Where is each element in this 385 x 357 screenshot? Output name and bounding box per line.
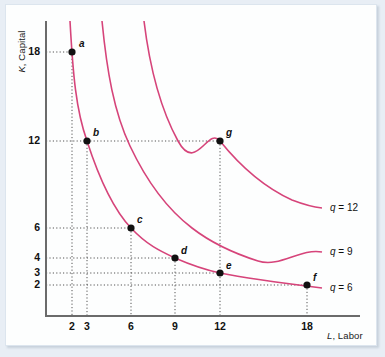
point-label-d: d	[181, 245, 187, 256]
point-b	[83, 137, 90, 144]
point-label-g: g	[226, 127, 232, 138]
y-tick-label-3: 3	[18, 266, 40, 278]
x-axis-title: L, Labor	[327, 330, 363, 341]
y-tick-label-6: 6	[18, 221, 40, 233]
y-tick-label-18: 18	[18, 45, 40, 57]
y-tick-label-4: 4	[18, 251, 40, 263]
point-label-a: a	[79, 38, 85, 49]
guide-lines	[46, 52, 307, 316]
isoquant-curves	[70, 21, 322, 288]
point-e	[216, 269, 223, 276]
isoquant-q6	[70, 21, 322, 288]
x-axis-text: , Labor	[332, 330, 362, 341]
curve-label-q9: q = 9	[330, 246, 353, 257]
curve-label-q6: q = 6	[330, 282, 353, 293]
isoquant-q9	[102, 21, 322, 262]
point-f	[303, 281, 310, 288]
point-d	[171, 254, 178, 261]
curve-label-q9-text: = 9	[336, 246, 353, 257]
point-a	[68, 48, 75, 55]
x-tick-label-12: 12	[210, 320, 230, 332]
x-tick-label-3: 3	[77, 320, 97, 332]
curve-label-q12: q = 12	[330, 202, 358, 213]
x-tick-label-9: 9	[165, 320, 185, 332]
x-tick-label-18: 18	[297, 320, 317, 332]
y-axis-symbol: K	[16, 66, 27, 72]
curve-label-q12-text: = 12	[336, 202, 359, 213]
x-tick-label-6: 6	[121, 320, 141, 332]
y-tick-label-12: 12	[18, 134, 40, 146]
point-c	[127, 224, 134, 231]
data-points	[68, 48, 310, 288]
point-g	[216, 137, 223, 144]
isoquant-figure: K, Capital L, Labor 18 12 6 4 3 2 2 3 6 …	[0, 0, 385, 357]
isoquant-plot	[0, 0, 385, 357]
curve-label-q6-text: = 6	[336, 282, 353, 293]
isoquant-q12	[144, 21, 322, 208]
point-label-f: f	[313, 272, 316, 283]
point-label-b: b	[93, 127, 99, 138]
point-label-e: e	[226, 260, 232, 271]
y-tick-label-2: 2	[18, 278, 40, 290]
point-label-c: c	[137, 214, 143, 225]
